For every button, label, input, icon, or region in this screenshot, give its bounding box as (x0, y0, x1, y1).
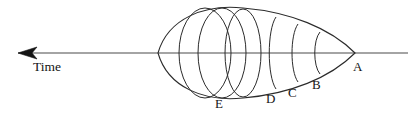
label-c: C (288, 86, 297, 99)
time-axis-label: Time (33, 60, 61, 74)
figure-root: Time A B C D E (0, 0, 418, 122)
label-a: A (353, 60, 362, 73)
label-b: B (312, 78, 321, 91)
label-e: E (215, 97, 223, 110)
label-d: D (266, 92, 275, 105)
